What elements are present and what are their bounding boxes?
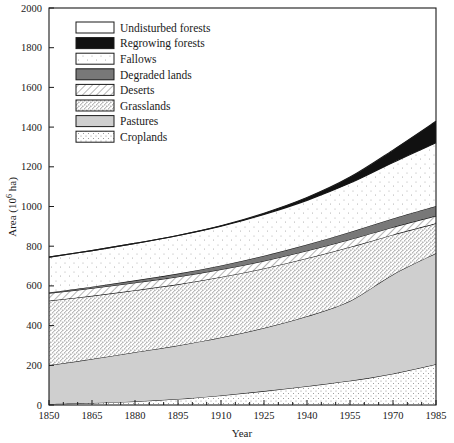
y-tick-label: 0 [37,400,42,411]
legend-label-pastures: Pastures [120,115,159,127]
legend-label-undisturbed-forests: Undisturbed forests [120,22,211,34]
x-tick-label: 1940 [297,410,318,421]
chart-canvas: 0200400600800100012001400160018002000 18… [0,0,454,443]
y-axis-title: Area (106 ha) [5,177,19,237]
legend-swatch-fallows [76,53,114,64]
y-tick-label: 1600 [21,82,42,93]
legend-item-undisturbed-forests: Undisturbed forests [76,22,211,34]
legend-label-deserts: Deserts [120,84,155,96]
legend-label-croplands: Croplands [120,131,168,144]
x-tick-label: 1955 [340,410,361,421]
legend-swatch-undisturbed-forests [76,22,114,33]
legend-label-fallows: Fallows [120,53,157,65]
legend-item-regrowing-forests: Regrowing forests [76,37,205,50]
y-tick-label: 1800 [21,42,42,53]
legend-item-degraded-lands: Degraded lands [76,69,192,82]
legend-item-croplands: Croplands [76,131,168,144]
legend-swatch-deserts [76,84,114,95]
legend-swatch-croplands [76,131,114,142]
y-axis-title-tail: ha) [6,177,19,194]
y-tick-label: 400 [26,320,42,331]
legend-swatch-grasslands [76,100,114,111]
x-tick-label: 1925 [254,410,275,421]
x-tick-label: 1985 [426,410,447,421]
legend-swatch-pastures [76,116,114,127]
y-tick-label: 200 [26,360,42,371]
y-tick-label: 1000 [21,201,42,212]
x-tick-label: 1895 [168,410,189,421]
legend-label-degraded-lands: Degraded lands [120,69,192,82]
y-tick-label: 800 [26,241,42,252]
legend-swatch-regrowing-forests [76,38,114,49]
x-axis-title: Year [232,427,253,439]
stacked-area-chart: 0200400600800100012001400160018002000 18… [0,0,454,443]
legend-label-grasslands: Grasslands [120,100,171,112]
legend-item-grasslands: Grasslands [76,100,171,112]
legend-label-regrowing-forests: Regrowing forests [120,37,205,50]
y-tick-label: 1200 [21,161,42,172]
x-tick-label: 1970 [383,410,404,421]
svg-text:Area (106 ha): Area (106 ha) [5,177,19,237]
y-tick-label: 2000 [21,3,42,14]
y-axis-title-base: Area (10 [6,198,19,237]
legend-swatch-degraded-lands [76,69,114,80]
y-tick-label: 1400 [21,122,42,133]
x-tick-label: 1865 [82,410,103,421]
x-tick-label: 1850 [39,410,60,421]
x-tick-label: 1910 [211,410,232,421]
x-tick-label: 1880 [125,410,146,421]
y-tick-label: 600 [26,280,42,291]
